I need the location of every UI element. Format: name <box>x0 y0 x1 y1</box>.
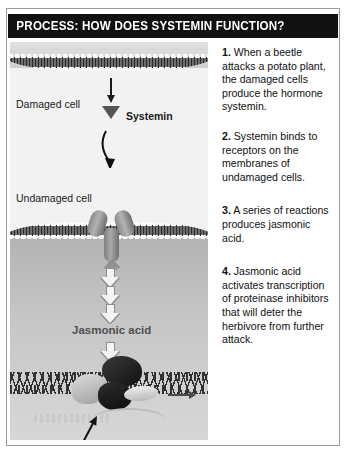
page-title: PROCESS: HOW DOES SYSTEMIN FUNCTION? <box>8 19 285 33</box>
step-item: 4. Jasmonic acid activates transcription… <box>222 265 334 347</box>
step-text: Jasmonic acid activates transcription of… <box>222 265 329 345</box>
signal-chevron-icon <box>101 268 120 287</box>
mrna-direction-arrow <box>168 394 190 396</box>
undamaged-cell-label: Undamaged cell <box>16 192 92 204</box>
damaged-cell-membrane <box>10 42 208 88</box>
membrane-receptor-icon <box>88 210 134 264</box>
systemin-label: Systemin <box>126 110 173 122</box>
steps-column: 1. When a beetle attacks a potato plant,… <box>222 46 334 361</box>
step-item: 3. A series of reactions produces jasmon… <box>222 204 334 245</box>
step-number: 1. <box>222 46 231 58</box>
caption-bold-line: Proteinase inhibitors <box>64 438 208 440</box>
figure-title-bar: PROCESS: HOW DOES SYSTEMIN FUNCTION? <box>8 14 338 38</box>
step-item: 1. When a beetle attacks a potato plant,… <box>222 46 334 114</box>
signal-chevron-icon <box>101 286 120 305</box>
intercellular-gap <box>10 168 208 212</box>
proteinase-inhibitor-caption: Proteinase inhibitors (taste bad and mak… <box>64 438 208 440</box>
step-item: 2. Systemin binds to receptors on the me… <box>222 130 334 184</box>
step-number: 3. <box>222 204 231 216</box>
step-number: 2. <box>222 130 231 142</box>
proteinase-inhibitor-molecule <box>34 414 112 423</box>
signal-chevron-icon <box>101 304 120 323</box>
step-number: 4. <box>222 265 231 277</box>
step-text: A series of reactions produces jasmonic … <box>222 204 329 243</box>
damaged-cell-label: Damaged cell <box>16 98 80 110</box>
jasmonic-acid-label: Jasmonic acid <box>72 324 151 336</box>
systemin-particle-icon <box>102 106 120 119</box>
step-text: When a beetle attacks a potato plant, th… <box>222 46 326 112</box>
diagram-panel: Damaged cell Systemin Undamaged cell <box>10 42 208 440</box>
transcription-complex-icon <box>72 354 164 416</box>
step-text: Systemin binds to receptors on the membr… <box>222 130 317 183</box>
figure-page: PROCESS: HOW DOES SYSTEMIN FUNCTION? Dam… <box>0 0 346 454</box>
systemin-release-arrow <box>110 78 112 96</box>
systemin-travel-arrow <box>96 130 130 170</box>
